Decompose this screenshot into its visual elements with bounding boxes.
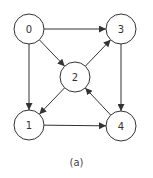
edge-2-to-1 <box>39 88 64 114</box>
node-label: 0 <box>26 24 32 35</box>
edge-0-to-2 <box>39 40 64 66</box>
node-0: 0 <box>14 14 44 44</box>
node-label: 4 <box>118 121 124 132</box>
edge-4-to-2 <box>85 88 110 115</box>
node-4: 4 <box>106 111 136 141</box>
node-2: 2 <box>60 62 90 92</box>
node-label: 3 <box>118 24 124 35</box>
directed-graph: 01234 <box>0 0 153 178</box>
node-label: 1 <box>26 120 32 131</box>
figure-caption: (a) <box>0 157 153 168</box>
node-3: 3 <box>106 14 136 44</box>
node-1: 1 <box>14 110 44 140</box>
node-label: 2 <box>72 72 78 83</box>
edge-1-to-4 <box>44 125 106 126</box>
edge-2-to-3 <box>85 40 110 66</box>
nodes-layer: 01234 <box>14 14 136 141</box>
